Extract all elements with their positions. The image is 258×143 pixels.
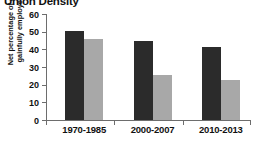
y-axis-tick-label: 30: [29, 63, 39, 73]
bar-series-light-2010-2013[interactable]: [221, 80, 240, 120]
category-label-1970-1985: 1970-1985: [47, 124, 121, 135]
y-axis-tick: 50: [42, 32, 46, 33]
y-axis-tick: 60: [42, 14, 46, 15]
bar-series-dark-2000-2007[interactable]: [134, 41, 153, 120]
bar-series-dark-2010-2013[interactable]: [202, 47, 221, 120]
y-axis-tick-label: 10: [29, 98, 39, 108]
y-axis-tick-label: 20: [29, 80, 39, 90]
y-axis-title: Net percentage of all gainfully employed: [5, 0, 27, 79]
y-axis-tick-label: 50: [29, 27, 39, 37]
union-density-bar-chart: Union Density Net percentage of all gain…: [0, 0, 258, 143]
category-label-2000-2007: 2000-2007: [116, 124, 190, 135]
y-axis-tick: 10: [42, 102, 46, 103]
y-axis-tick: 40: [42, 49, 46, 50]
y-axis-tick-label: 60: [29, 10, 39, 20]
plot-area: 0102030405060: [46, 14, 251, 121]
y-axis-tick-label: 40: [29, 45, 39, 55]
y-axis-tick: 30: [42, 67, 46, 68]
category-label-2010-2013: 2010-2013: [184, 124, 258, 135]
bar-series-light-2000-2007[interactable]: [153, 75, 172, 120]
bar-group: [134, 14, 172, 120]
x-axis-line: [46, 120, 251, 121]
bar-group: [65, 14, 103, 120]
bar-series-light-1970-1985[interactable]: [84, 39, 103, 120]
y-axis-line: [46, 14, 47, 121]
y-axis-tick: 20: [42, 85, 46, 86]
y-axis-tick-label: 0: [34, 116, 39, 126]
bar-series-dark-1970-1985[interactable]: [65, 31, 84, 120]
bar-group: [202, 14, 240, 120]
